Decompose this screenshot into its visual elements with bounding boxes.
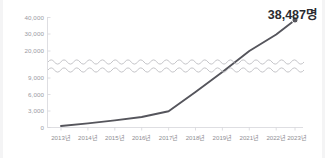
chart-container: 0 3,000 6,000 9,000 20,000 30,000 40,000 [0, 0, 325, 158]
x-tick-label-2015: 2015년 [105, 134, 125, 141]
x-tick-marks [61, 128, 295, 131]
y-tick-label-6000: 6,000 [28, 91, 44, 98]
x-tick-label-2016: 2016년 [132, 134, 152, 141]
x-tick-label-2022: 2022년 [266, 134, 286, 141]
x-tick-label-2021: 2021년 [240, 134, 260, 141]
y-tick-label-0: 0 [40, 124, 44, 131]
series-path [61, 20, 295, 126]
x-tick-label-2019: 2019년 [213, 134, 233, 141]
axis-break-band [48, 60, 304, 72]
x-tick-label-2014: 2014년 [78, 134, 98, 141]
y-tick-label-3000: 3,000 [28, 107, 44, 114]
final-value-callout-group: 38,487명 [268, 7, 318, 22]
y-tick-label-20000: 20,000 [24, 47, 44, 54]
x-tick-label-2023: 2023년 [287, 134, 307, 141]
y-tick-marks [48, 18, 51, 128]
break-wave-bottom [48, 68, 304, 72]
final-value-callout: 38,487명 [268, 7, 318, 22]
data-series-line [61, 20, 295, 126]
y-tick-label-9000: 9,000 [28, 74, 44, 81]
x-tick-label-2018: 2018년 [186, 134, 206, 141]
y-axis-group: 0 3,000 6,000 9,000 20,000 30,000 40,000 [24, 14, 50, 131]
y-tick-label-40000: 40,000 [24, 14, 44, 21]
x-tick-label-2013: 2013년 [51, 134, 71, 141]
break-wave-top [48, 60, 304, 64]
x-tick-label-2017: 2017년 [159, 134, 179, 141]
x-axis-group: 2013년 2014년 2015년 2016년 2017년 2018년 2019… [48, 128, 307, 142]
line-chart-svg: 0 3,000 6,000 9,000 20,000 30,000 40,000 [0, 0, 325, 158]
y-tick-label-30000: 30,000 [24, 30, 44, 37]
